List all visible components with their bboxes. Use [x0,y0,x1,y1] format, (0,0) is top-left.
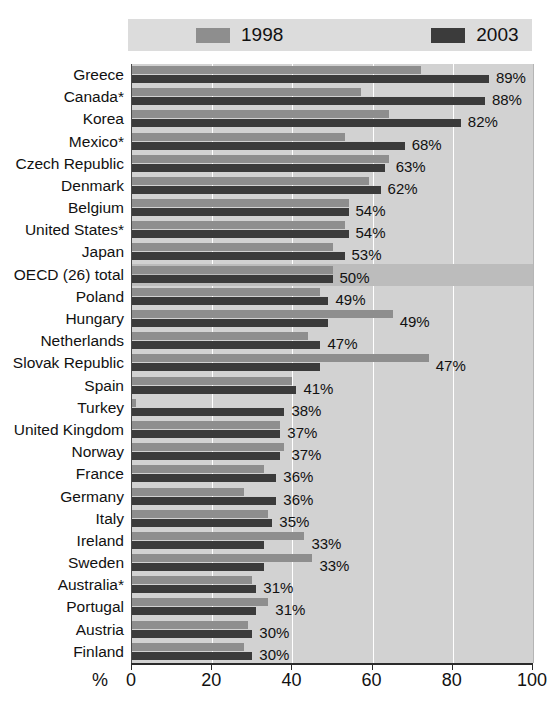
category-label: Poland [0,288,124,306]
category-axis-labels: GreeceCanada*KoreaMexico*Czech RepublicD… [0,64,124,663]
x-tick-label: 60 [352,670,392,691]
x-axis-line [131,663,533,665]
x-tick-label: 20 [191,670,231,691]
bar-1998 [132,510,268,518]
bar-1998 [132,532,304,540]
bar-value-label: 37% [287,424,317,441]
bar-2003 [132,363,320,371]
category-label: Portugal [0,598,124,616]
bar-2003 [132,497,276,505]
bar-1998 [132,443,284,451]
chart-row: 47% [132,352,533,374]
x-tick-label: 40 [271,670,311,691]
chart-row: 63% [132,153,533,175]
bar-value-label: 49% [400,313,430,330]
chart-row: 54% [132,197,533,219]
category-label: Czech Republic [0,155,124,173]
bar-2003 [132,408,284,416]
category-label: Spain [0,377,124,395]
bar-value-label: 47% [327,335,357,352]
chart-row: 37% [132,419,533,441]
bar-value-label: 35% [279,513,309,530]
bar-2003 [132,630,252,638]
bar-2003 [132,519,272,527]
bar-1998 [132,332,308,340]
bar-value-label: 36% [283,491,313,508]
category-label: OECD (26) total [0,266,124,284]
category-label: Germany [0,488,124,506]
category-label: Slovak Republic [0,354,124,372]
chart-legend: 1998 2003 [128,19,532,51]
bar-1998 [132,243,333,251]
category-label: France [0,465,124,483]
x-tick-mark [211,663,212,670]
bar-value-label: 31% [263,579,293,596]
x-tick-mark [291,663,292,670]
bar-1998 [132,643,244,651]
category-label: Turkey [0,399,124,417]
bar-value-label: 68% [412,136,442,153]
bar-value-label: 88% [492,91,522,108]
category-label: Netherlands [0,332,124,350]
bar-2003 [132,563,264,571]
category-label: Japan [0,243,124,261]
legend-swatch-2003 [431,28,465,43]
chart-row: 36% [132,486,533,508]
bar-2003 [132,386,296,394]
chart-row: 30% [132,619,533,641]
bar-value-label: 54% [356,224,386,241]
chart-row: 54% [132,219,533,241]
bar-2003 [132,208,349,216]
bar-2003 [132,97,485,105]
bar-value-label: 62% [388,180,418,197]
bar-1998 [132,554,312,562]
bar-value-label: 63% [396,158,426,175]
category-label: Denmark [0,177,124,195]
bar-2003 [132,541,264,549]
bar-2003 [132,430,280,438]
chart-row: 33% [132,530,533,552]
chart-row: 82% [132,108,533,130]
bar-value-label: 89% [496,69,526,86]
category-label: United States* [0,221,124,239]
bar-1998 [132,621,248,629]
category-label: Belgium [0,199,124,217]
chart-row: 89% [132,64,533,86]
chart-row: 37% [132,441,533,463]
bar-value-label: 49% [335,291,365,308]
x-tick-label: 0 [111,670,151,691]
chart-row: 41% [132,375,533,397]
bar-1998 [132,488,244,496]
chart-row: 35% [132,508,533,530]
chart-row: 47% [132,330,533,352]
bar-value-label: 47% [436,357,466,374]
bar-1998 [132,421,280,429]
figure-caption [106,697,546,709]
value-axis: % 020406080100 [0,670,546,696]
x-tick-label: 100 [512,670,551,691]
bar-2003 [132,142,405,150]
chart-row: 88% [132,86,533,108]
chart-row: 33% [132,552,533,574]
chart-plot-area: 89%88%82%68%63%62%54%54%53%50%49%49%47%4… [131,64,534,663]
bar-1998 [132,199,349,207]
bar-value-label: 50% [340,269,370,286]
bar-1998 [132,133,345,141]
category-label: Finland [0,643,124,661]
bar-value-label: 33% [311,535,341,552]
bar-1998 [132,465,264,473]
bar-1998 [132,221,345,229]
bar-1998 [132,377,292,385]
category-label: Hungary [0,310,124,328]
bar-value-label: 30% [259,624,289,641]
category-label: Canada* [0,88,124,106]
chart-row: 49% [132,308,533,330]
bar-value-label: 54% [356,202,386,219]
bar-1998 [132,354,429,362]
bar-value-label: 53% [352,246,382,263]
legend-item-1998: 1998 [196,24,283,46]
category-label: Austria [0,621,124,639]
category-label: Sweden [0,554,124,572]
legend-label-1998: 1998 [241,24,283,46]
bar-2003 [132,607,256,615]
